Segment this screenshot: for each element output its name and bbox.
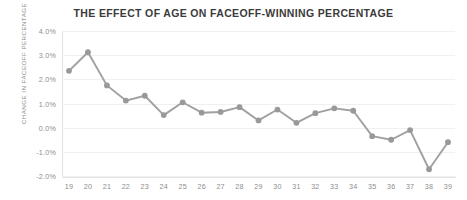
data-point-marker: [369, 133, 375, 139]
data-point-marker: [426, 166, 432, 172]
x-axis-tick: 30: [273, 182, 281, 191]
x-axis-tick: 36: [387, 182, 395, 191]
chart-title: THE EFFECT OF AGE ON FACEOFF-WINNING PER…: [0, 7, 467, 19]
x-axis-tick: 19: [65, 182, 73, 191]
y-axis-tick: 4.0%: [26, 27, 56, 36]
data-point-marker: [388, 137, 394, 143]
plot-area: [62, 31, 455, 176]
data-point-marker: [275, 107, 281, 113]
x-axis-tick: 22: [122, 182, 130, 191]
data-point-marker: [350, 108, 356, 114]
y-axis-tick-labels: 4.0%3.0%2.0%1.0%0.0%-1.0%-2.0%: [22, 31, 56, 176]
x-axis-tick: 27: [216, 182, 224, 191]
x-axis-line: [62, 177, 456, 178]
y-axis-tick: 2.0%: [26, 75, 56, 84]
x-axis-tick: 32: [311, 182, 319, 191]
y-axis-tick: -1.0%: [26, 147, 56, 156]
data-point-marker: [331, 105, 337, 111]
x-axis-tick: 24: [160, 182, 168, 191]
data-point-marker: [161, 112, 167, 118]
y-axis-tick: 0.0%: [26, 123, 56, 132]
data-point-marker: [407, 127, 413, 133]
x-axis-tick-labels: 1920212223242526272829303132333435363738…: [62, 182, 455, 196]
data-point-marker: [256, 118, 262, 124]
data-point-marker: [123, 98, 129, 104]
data-point-marker: [199, 110, 205, 116]
x-axis-tick: 20: [84, 182, 92, 191]
line-series: [62, 31, 455, 176]
data-point-marker: [237, 104, 243, 110]
x-axis-tick: 29: [254, 182, 262, 191]
x-axis-tick: 28: [235, 182, 243, 191]
gridline: [62, 176, 455, 177]
y-axis-tick: 3.0%: [26, 51, 56, 60]
x-axis-tick: 39: [444, 182, 452, 191]
data-point-marker: [294, 120, 300, 126]
data-point-marker: [66, 68, 72, 74]
data-point-marker: [180, 99, 186, 105]
y-axis-tick: -2.0%: [26, 172, 56, 181]
y-axis-tick: 1.0%: [26, 99, 56, 108]
data-point-marker: [218, 109, 224, 115]
x-axis-tick: 25: [178, 182, 186, 191]
data-point-marker: [445, 139, 451, 145]
series-line: [69, 52, 448, 169]
x-axis-tick: 21: [103, 182, 111, 191]
x-axis-tick: 38: [425, 182, 433, 191]
x-axis-tick: 31: [292, 182, 300, 191]
data-point-marker: [104, 82, 110, 88]
chart-container: THE EFFECT OF AGE ON FACEOFF-WINNING PER…: [0, 0, 467, 200]
x-axis-tick: 23: [141, 182, 149, 191]
x-axis-tick: 34: [349, 182, 357, 191]
x-axis-tick: 37: [406, 182, 414, 191]
x-axis-tick: 35: [368, 182, 376, 191]
data-point-marker: [312, 110, 318, 116]
data-point-marker: [142, 93, 148, 99]
x-axis-tick: 26: [197, 182, 205, 191]
x-axis-tick: 33: [330, 182, 338, 191]
data-point-marker: [85, 49, 91, 55]
